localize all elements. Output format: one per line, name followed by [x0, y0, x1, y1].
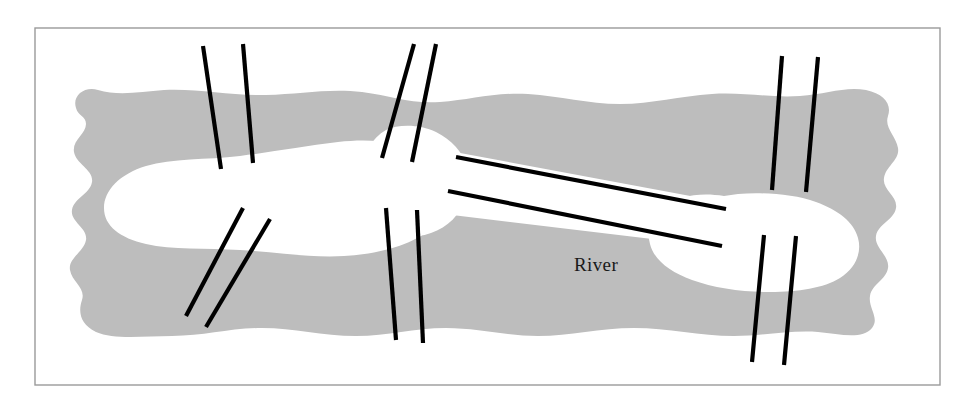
figure-canvas: River [0, 0, 971, 409]
river-bridges-figure: River [0, 0, 971, 409]
river-label: River [574, 254, 618, 275]
